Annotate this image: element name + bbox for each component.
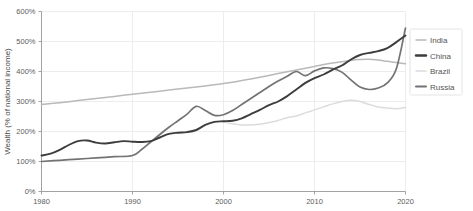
y-tick-label: 200% (16, 127, 36, 136)
y-tick-label: 400% (16, 67, 36, 76)
x-tick-labels: 19801990200020102020 (33, 192, 414, 206)
gridlines (42, 12, 406, 192)
legend-label-russia[interactable]: Russia (430, 83, 455, 92)
x-tick-label: 1980 (33, 197, 50, 206)
x-tick-label: 2020 (397, 197, 414, 206)
x-tick-label: 2010 (306, 197, 323, 206)
legend-label-india[interactable]: India (430, 36, 448, 45)
chart-legend[interactable]: IndiaChinaBrazilRussia (410, 29, 462, 95)
line-chart: 0%100%200%300%400%500%600% 1980199020002… (0, 0, 473, 211)
y-tick-labels: 0%100%200%300%400%500%600% (16, 7, 41, 196)
y-tick-label: 500% (16, 37, 36, 46)
y-axis-label: Wealth (% of national income) (3, 48, 12, 155)
x-tick-label: 2000 (215, 197, 232, 206)
y-tick-label: 100% (16, 157, 36, 166)
legend-label-brazil[interactable]: Brazil (430, 67, 450, 76)
x-tick-label: 1990 (124, 197, 141, 206)
y-axis-title: Wealth (% of national income) (3, 48, 12, 155)
chart-container: 0%100%200%300%400%500%600% 1980199020002… (0, 0, 473, 211)
y-tick-label: 300% (16, 97, 36, 106)
legend-label-china[interactable]: China (430, 52, 451, 61)
y-tick-label: 600% (16, 7, 36, 16)
y-tick-label: 0% (25, 187, 36, 196)
